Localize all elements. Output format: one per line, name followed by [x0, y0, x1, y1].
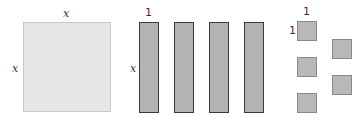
x-squared-top-label: x — [63, 8, 69, 19]
x-strip-tile — [139, 22, 159, 113]
x-strip-tile — [174, 22, 194, 113]
x-squared-tile — [23, 22, 111, 112]
x-strip-tile — [209, 22, 229, 113]
strip-top-label: 1 — [145, 7, 152, 18]
unit-top-label: 1 — [303, 6, 310, 17]
unit-tile — [332, 75, 352, 95]
unit-tile — [332, 39, 352, 59]
unit-tile — [297, 57, 317, 77]
unit-side-label: 1 — [289, 25, 296, 36]
x-strip-tile — [244, 22, 264, 113]
unit-tile — [297, 93, 317, 113]
unit-tile — [297, 21, 317, 41]
strip-side-label: x — [130, 63, 136, 74]
x-squared-side-label: x — [12, 63, 18, 74]
